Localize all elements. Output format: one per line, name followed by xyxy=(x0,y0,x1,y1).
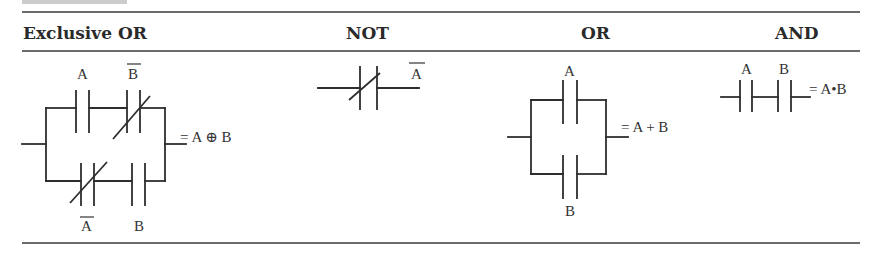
or-output: = A + B xyxy=(621,119,668,135)
xor-output: = A ⊕ B xyxy=(180,129,231,145)
or-contact-b xyxy=(563,155,577,199)
cropped-title-fragment xyxy=(22,0,127,4)
and-label-b: B xyxy=(779,61,789,77)
not-label-a-bar: A xyxy=(411,66,422,82)
header-not: NOT xyxy=(346,23,389,43)
header-exclusive-or: Exclusive OR xyxy=(23,23,148,43)
not-rung: A xyxy=(318,63,425,110)
header-and: AND xyxy=(774,23,819,43)
or-label-b: B xyxy=(565,203,575,219)
or-rung: A B = A + B xyxy=(508,63,668,219)
xor-label-b-bar: B xyxy=(128,66,138,82)
ladder-logic-table: Exclusive OR NOT OR AND A B xyxy=(0,0,878,256)
or-label-a: A xyxy=(564,63,575,79)
and-contact-b xyxy=(778,80,791,112)
and-output: = A•B xyxy=(809,81,846,97)
and-rung: A B = A•B xyxy=(721,61,846,112)
xor-rung: A B A B = A ⊕ B xyxy=(22,64,231,234)
xor-label-a: A xyxy=(77,66,88,82)
header-or: OR xyxy=(581,23,611,43)
xor-label-b: B xyxy=(134,218,144,234)
and-contact-a xyxy=(740,80,752,112)
and-label-a: A xyxy=(741,61,752,77)
xor-contact-a-bar xyxy=(70,162,107,206)
or-contact-a xyxy=(563,80,577,124)
xor-contact-b-bar xyxy=(113,90,150,139)
xor-contact-b xyxy=(132,163,145,206)
xor-label-a-bar: A xyxy=(81,218,92,234)
xor-contact-a xyxy=(76,90,89,133)
